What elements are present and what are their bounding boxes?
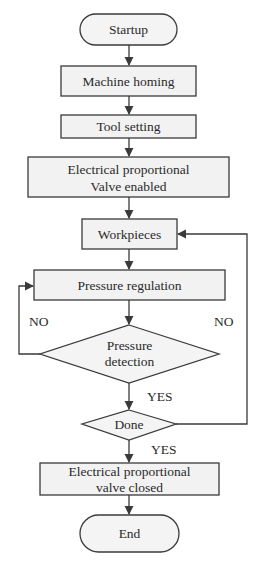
flowchart: Startup Machine homing Tool setting Elec… — [0, 0, 262, 571]
node-label: Workpieces — [98, 227, 161, 242]
edge-label-detection-no: NO — [29, 314, 49, 329]
edge-label-detection-yes: YES — [147, 389, 173, 404]
edge-label-done-yes: YES — [151, 442, 177, 457]
node-label-line2: Valve enabled — [90, 179, 166, 194]
node-workpieces: Workpieces — [82, 219, 177, 249]
node-startup: Startup — [80, 14, 177, 45]
node-label: Machine homing — [83, 74, 175, 89]
node-label-line1: Pressure — [107, 338, 153, 353]
node-label: Tool setting — [97, 119, 161, 134]
node-machine-homing: Machine homing — [61, 66, 196, 96]
node-valve-closed: Electrical proportional valve closed — [40, 463, 219, 495]
node-pressure-detection: Pressure detection — [40, 325, 219, 383]
node-label: End — [119, 526, 141, 541]
node-valve-enabled: Electrical proportional Valve enabled — [28, 157, 229, 197]
node-tool-setting: Tool setting — [61, 115, 196, 138]
edge-label-done-no: NO — [214, 314, 234, 329]
node-label-line2: valve closed — [96, 480, 163, 495]
node-pressure-regulation: Pressure regulation — [34, 270, 225, 300]
node-label-line1: Electrical proportional — [68, 162, 190, 177]
node-label: Pressure regulation — [78, 278, 182, 293]
node-end: End — [80, 515, 179, 552]
node-done: Done — [82, 410, 176, 440]
node-label: Startup — [109, 22, 148, 37]
node-label: Done — [114, 417, 143, 432]
edge-done-no-loop — [176, 234, 247, 424]
node-label-line1: Electrical proportional — [69, 464, 191, 479]
node-label-line2: detection — [105, 354, 155, 369]
